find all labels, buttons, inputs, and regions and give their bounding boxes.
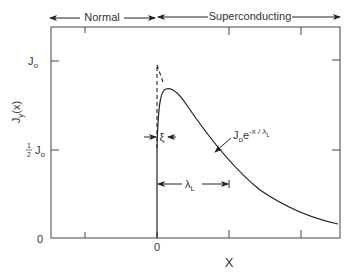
- superconductor-current-diagram: Normal Superconducting Jo 1 2 Jo 0 Jy(: [0, 0, 348, 274]
- y-tick-half-jo: 1 2 Jo: [26, 142, 46, 159]
- superconducting-region-indicator: Superconducting: [158, 10, 340, 22]
- y-tick-zero: 0: [37, 233, 43, 245]
- lambda-l-label: λL: [185, 178, 196, 193]
- normal-region-indicator: Normal: [50, 11, 155, 23]
- superconducting-label: Superconducting: [209, 10, 292, 22]
- svg-text:Jo: Jo: [35, 144, 46, 159]
- curve-label-annotation: Joe-x / λL: [215, 127, 270, 152]
- current-density-curve: [157, 89, 338, 224]
- curve-label: Joe-x / λL: [233, 127, 270, 144]
- plot-frame: [51, 27, 340, 238]
- coherence-length-annotation: ξ: [144, 131, 176, 143]
- x-axis-label: X: [225, 255, 234, 270]
- penetration-depth-annotation: λL: [158, 178, 229, 193]
- xi-label: ξ: [160, 131, 165, 143]
- y-tick-jo: Jo: [28, 55, 39, 70]
- y-axis-label: Jy(x): [10, 101, 25, 123]
- normal-label: Normal: [84, 11, 119, 23]
- svg-text:2: 2: [27, 151, 31, 158]
- y-ticks: [51, 60, 340, 150]
- svg-text:1: 1: [27, 142, 31, 149]
- x-tick-origin: 0: [154, 241, 160, 253]
